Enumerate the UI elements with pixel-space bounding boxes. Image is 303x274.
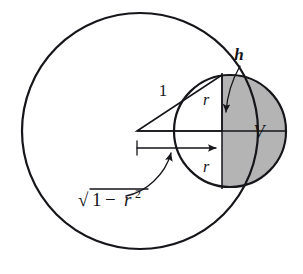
sqrt-minus-sign: −	[105, 189, 116, 210]
label-unit-radius: 1	[159, 81, 168, 100]
geometry-figure: h r r V 1 √ 1 − r 2	[0, 0, 303, 274]
sqrt-operand-one: 1	[92, 189, 102, 210]
sqrt-exponent-two: 2	[135, 187, 141, 201]
label-r-bottom: r	[203, 158, 210, 175]
label-r-top: r	[203, 91, 210, 108]
sqrt-variable-r: r	[124, 189, 132, 210]
sqrt-radical-icon: √	[78, 189, 89, 210]
diagram-root: h r r V 1 √ 1 − r 2	[0, 0, 303, 274]
label-h: h	[234, 45, 243, 64]
